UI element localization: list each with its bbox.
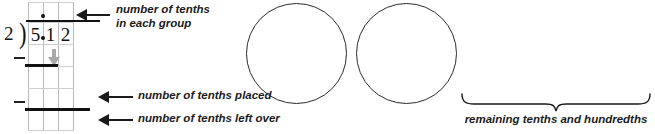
minus-sign-lower [14,101,25,103]
dividend-digit-1: 5 [28,25,43,44]
dividend-digit-3: 2 [58,25,73,44]
remaining-brace-group: remaining tenths and hundredths [460,93,652,117]
brace-caption: remaining tenths and hundredths [460,113,652,127]
subtraction-bar-lower [25,108,90,111]
annotation-leader-line [108,96,133,98]
minus-sign-upper [14,57,25,59]
diagram-canvas: 2 ) 5 1 2 number of tenths in each group [0,0,655,134]
annotation-label: number of tenths in each group [116,3,256,30]
annotation-label: number of tenths left over [138,112,318,126]
grid-hline-4 [28,88,74,89]
group-circle-1 [246,3,347,104]
group-circle-2 [356,3,457,104]
quotient-decimal-point [41,14,45,18]
grid-hline-0 [28,2,74,3]
annotation-leader-line [108,119,133,121]
divisor-value: 2 [4,24,14,43]
subtraction-bar-upper [25,64,58,67]
annotation-leader-line [86,14,110,16]
division-bracket: ) [19,18,27,48]
dividend-digit-2: 1 [43,25,58,44]
curly-brace-down-icon [460,93,652,113]
grid-hline-6 [28,130,74,131]
division-vinculum [26,20,100,22]
